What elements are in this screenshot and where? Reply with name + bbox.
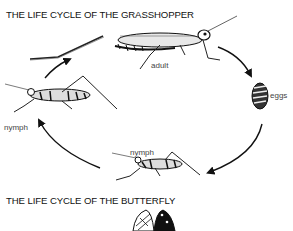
arrow-eggs-to-nymph <box>210 124 262 172</box>
butterfly-icon <box>133 210 175 231</box>
stage-label-eggs: eggs <box>270 91 287 100</box>
nymph-grasshopper-icon <box>112 152 200 180</box>
arrow-nymph-to-nymph <box>40 122 100 168</box>
egg-pod-icon <box>252 83 268 109</box>
arrow-adult-to-eggs <box>218 47 250 74</box>
arrow-nymph-to-adult <box>45 60 68 78</box>
adult-grasshopper-icon <box>30 16 237 69</box>
stage-label-nymph-bottom: nymph <box>130 148 154 157</box>
butterfly-title: THE LIFE CYCLE OF THE BUTTERFLY <box>6 195 175 206</box>
stage-label-adult: adult <box>151 61 168 70</box>
nymph-grasshopper-icon <box>5 76 117 112</box>
stage-label-nymph-left: nymph <box>4 123 28 132</box>
